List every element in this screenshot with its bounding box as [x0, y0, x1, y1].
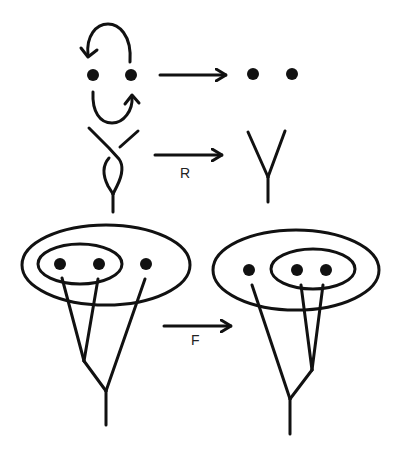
exchange-left: [81, 24, 139, 123]
dot-1-left: [54, 258, 66, 270]
bottom-exchange-arc: [93, 92, 132, 123]
diagram-canvas: R F: [0, 0, 403, 457]
dot-3-right: [320, 264, 332, 276]
left-tree-branch-2: [84, 279, 98, 361]
dot-2-right: [291, 264, 303, 276]
top-exchange-arc: [88, 24, 130, 62]
right-tree-branch-1: [252, 285, 290, 399]
plain-y: [248, 131, 285, 202]
exchange-right: [247, 68, 298, 80]
dot-3-left: [140, 258, 152, 270]
inner-ellipse-right: [271, 249, 355, 289]
outer-ellipse-left: [22, 225, 190, 305]
right-tree-branch-2: [301, 285, 312, 370]
right-tree-merge: [290, 370, 312, 399]
plain-y-right-branch: [268, 131, 285, 177]
arrow-f-label: F: [191, 332, 200, 348]
right-tree-branch-3: [312, 285, 323, 370]
point-a: [87, 69, 99, 81]
inner-ellipse-left: [38, 244, 122, 284]
dot-1-right: [243, 264, 255, 276]
strand-under-top: [120, 131, 138, 147]
left-tree-branch-1: [62, 278, 84, 361]
point-a-result: [247, 68, 259, 80]
strand-under-bottom: [104, 158, 113, 194]
left-tree-merge: [84, 361, 106, 391]
dot-2-left: [93, 258, 105, 270]
plain-y-left-branch: [248, 132, 268, 177]
point-b-result: [286, 68, 298, 80]
point-b: [125, 69, 137, 81]
left-tree-branch-3: [106, 279, 145, 391]
twisted-y: [89, 128, 138, 212]
f-right: [213, 230, 379, 434]
arrow-r-label: R: [180, 165, 190, 181]
